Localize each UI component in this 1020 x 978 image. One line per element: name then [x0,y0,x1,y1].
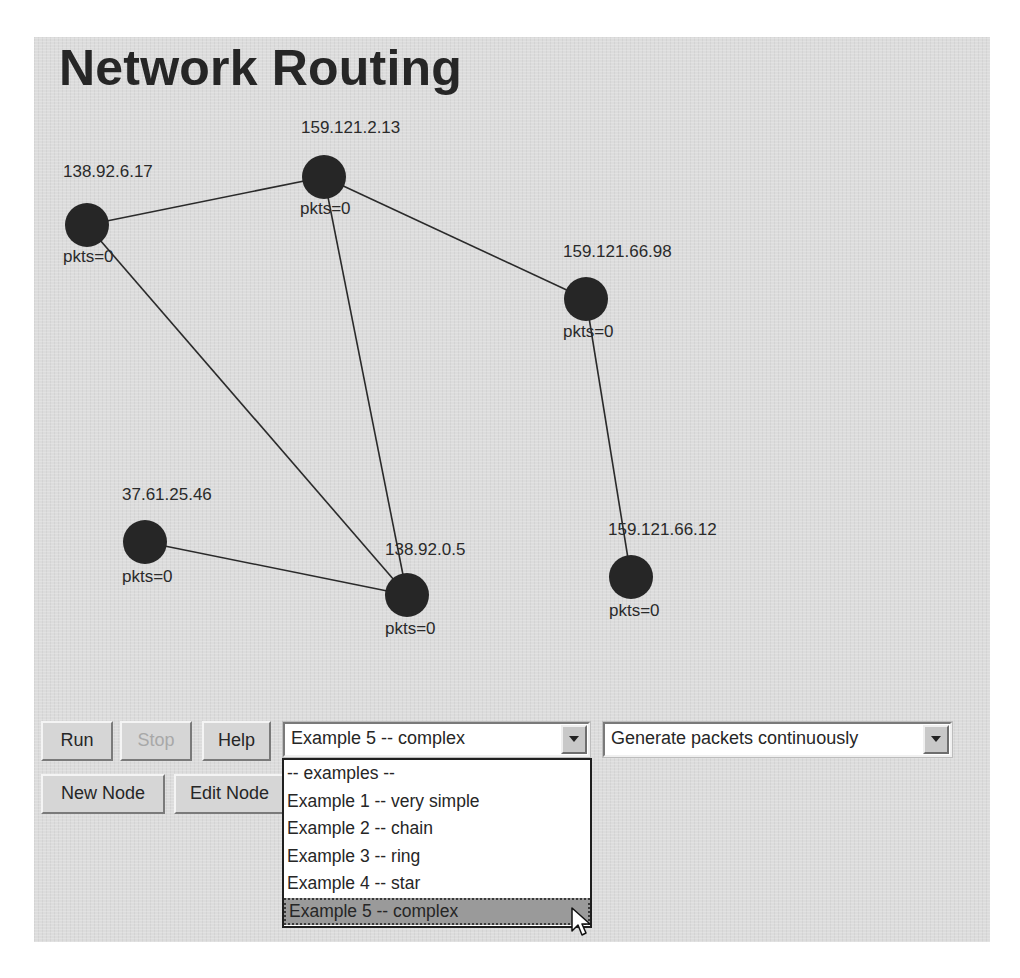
node-address-label: 159.121.2.13 [301,118,400,138]
dropdown-option-example-5[interactable]: Example 5 -- complex [284,898,590,926]
node-address-label: 159.121.66.12 [608,520,717,540]
node-159.121.2.13[interactable] [302,155,346,199]
run-button[interactable]: Run [41,721,113,761]
graph-nodes [65,155,653,617]
dropdown-option-example-1[interactable]: Example 1 -- very simple [284,788,590,816]
edge-159.121.2.13-159.121.66.98 [324,177,586,299]
network-graph-canvas[interactable] [34,37,990,717]
chevron-down-icon[interactable] [923,725,949,754]
packet-mode-combo-value: Generate packets continuously [611,728,858,749]
node-address-label: 138.92.6.17 [63,162,153,182]
examples-dropdown-list[interactable]: -- examples -- Example 1 -- very simple … [282,758,592,928]
edit-node-button[interactable]: Edit Node [174,774,298,814]
dropdown-option-example-3[interactable]: Example 3 -- ring [284,843,590,871]
stop-button[interactable]: Stop [120,721,192,761]
node-address-label: 159.121.66.98 [563,242,672,262]
dropdown-option-example-4[interactable]: Example 4 -- star [284,870,590,898]
node-37.61.25.46[interactable] [123,520,167,564]
node-address-label: 37.61.25.46 [122,485,212,505]
edge-159.121.2.13-138.92.0.5 [324,177,407,595]
node-159.121.66.12[interactable] [609,555,653,599]
node-packet-count: pkts=0 [609,601,660,621]
network-routing-applet: Network Routing 138.92.6.17 159.121.2.13… [34,37,990,942]
node-159.121.66.98[interactable] [564,277,608,321]
node-packet-count: pkts=0 [563,322,614,342]
node-packet-count: pkts=0 [385,619,436,639]
examples-combo[interactable]: Example 5 -- complex [283,722,590,757]
node-packet-count: pkts=0 [300,199,351,219]
node-address-label: 138.92.0.5 [385,540,465,560]
graph-edges [87,177,631,595]
node-138.92.6.17[interactable] [65,203,109,247]
packet-mode-combo[interactable]: Generate packets continuously [603,722,952,757]
node-packet-count: pkts=0 [63,247,114,267]
examples-combo-value: Example 5 -- complex [291,728,465,749]
node-138.92.0.5[interactable] [385,573,429,617]
mouse-pointer-icon [571,907,593,939]
dropdown-option-examples-header[interactable]: -- examples -- [284,760,590,788]
chevron-down-icon[interactable] [561,725,587,754]
dropdown-option-example-2[interactable]: Example 2 -- chain [284,815,590,843]
help-button[interactable]: Help [202,721,271,761]
node-packet-count: pkts=0 [122,567,173,587]
edge-138.92.6.17-159.121.2.13 [87,177,324,225]
new-node-button[interactable]: New Node [41,774,165,814]
